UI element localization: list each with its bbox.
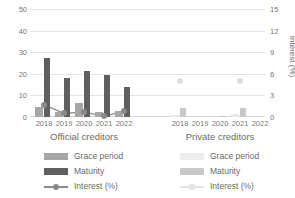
bar-grace-official-2021 [95,112,103,117]
bar-group-private-2022 [250,9,270,117]
left-tick-0: 0 [7,114,27,122]
bar-maturity-official-2020 [84,71,90,117]
legend-item-maturity-private[interactable]: Maturity [180,164,259,179]
xlabel-private-2022: 2022 [250,119,270,128]
bar-grace-private-2018 [171,115,179,117]
legend-label-interest-private: Interest (%) [210,182,254,191]
x-axis-labels-official: 2018 2019 2020 2021 2022 [34,119,134,130]
series-group-official-creditors [34,9,134,117]
bar-grace-official-2020 [75,103,83,117]
bar-group-private-2020 [210,9,230,117]
legend-label-maturity-official: Maturity [74,167,104,176]
legend-item-maturity-official[interactable]: Maturity [44,164,123,179]
bar-maturity-private-2021 [240,108,246,117]
bar-maturity-official-2021 [104,75,110,117]
bar-maturity-official-2018 [44,58,50,117]
bar-maturity-private-2018 [180,108,186,117]
xlabel-private-2018: 2018 [170,119,190,128]
right-tick-0: 0 [270,114,290,122]
legend-item-grace-official[interactable]: Grace period [44,149,123,164]
bar-group-official-2019 [54,9,74,117]
bar-group-official-2018 [34,9,54,117]
xlabel-official-2021: 2021 [94,119,114,128]
left-tick-40: 40 [7,28,27,36]
xlabel-official-2022: 2022 [114,119,134,128]
legend-official: Grace period Maturity Interest (%) [44,149,123,194]
left-tick-30: 30 [7,49,27,57]
legend-swatch-grace-official [44,153,68,160]
bar-group-private-2018 [170,9,190,117]
right-tick-6: 6 [270,71,290,79]
grouped-bar-line-chart: 50 40 30 20 10 0 15 12 9 6 3 0 Years Int… [0,0,295,198]
group-caption-private: Private creditors [170,131,270,142]
xlabel-private-2020: 2020 [210,119,230,128]
group-caption-official: Official creditors [34,131,134,142]
legend-swatch-maturity-private [180,168,204,175]
xlabel-private-2019: 2019 [190,119,210,128]
bar-group-official-2020 [74,9,94,117]
bar-grace-official-2022 [115,111,123,117]
bar-grace-private-2021 [231,114,239,117]
legend-swatch-maturity-official [44,168,68,175]
left-tick-50: 50 [7,6,27,14]
xlabel-official-2019: 2019 [54,119,74,128]
right-tick-3: 3 [270,92,290,100]
legend-label-grace-private: Grace period [210,152,259,161]
legend-swatch-grace-private [180,153,204,160]
left-tick-10: 10 [7,92,27,100]
xlabel-official-2020: 2020 [74,119,94,128]
legend-item-grace-private[interactable]: Grace period [180,149,259,164]
bar-maturity-private-2020 [220,116,226,117]
series-group-private-creditors [170,9,270,117]
right-tick-9: 9 [270,49,290,57]
xlabel-official-2018: 2018 [34,119,54,128]
plot-area [30,9,265,117]
legend-label-grace-official: Grace period [74,152,123,161]
bar-group-private-2019 [190,9,210,117]
legend-swatch-interest-private [180,183,204,190]
legend-private: Grace period Maturity Interest (%) [180,149,259,194]
bar-group-official-2022 [114,9,134,117]
bar-grace-official-2019 [55,112,63,117]
legend-item-interest-official[interactable]: Interest (%) [44,179,123,194]
right-tick-15: 15 [270,6,290,14]
x-axis-labels-private: 2018 2019 2020 2021 2022 [170,119,270,130]
bar-maturity-official-2022 [124,87,130,117]
legend-swatch-interest-official [44,183,68,190]
bar-maturity-official-2019 [64,78,70,117]
y-axis-title-interest: Interest (%) [288,36,295,77]
legend-item-interest-private[interactable]: Interest (%) [180,179,259,194]
bar-group-private-2021 [230,9,250,117]
left-tick-20: 20 [7,71,27,79]
right-tick-12: 12 [270,28,290,36]
xlabel-private-2021: 2021 [230,119,250,128]
bar-group-official-2021 [94,9,114,117]
legend-label-interest-official: Interest (%) [74,182,118,191]
bar-grace-official-2018 [35,107,43,117]
legend-label-maturity-private: Maturity [210,167,240,176]
